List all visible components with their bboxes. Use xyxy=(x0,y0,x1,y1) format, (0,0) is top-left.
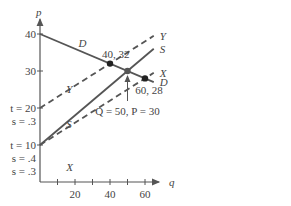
y-axis-label: p xyxy=(35,6,42,18)
axes: qp2040604030t = 20t = 10s = .3s = .4s = … xyxy=(10,6,175,200)
y-annotation: s = .3 xyxy=(12,165,37,177)
y-tick-label: t = 20 xyxy=(10,102,36,114)
point-label: 40, 32 xyxy=(102,48,130,60)
y-tick-label: t = 10 xyxy=(10,139,36,151)
x-tick-label: 40 xyxy=(105,188,117,200)
series-end-label-Y: Y xyxy=(160,30,168,42)
series-label-X: X xyxy=(65,161,74,173)
point-label: 60, 28 xyxy=(135,84,163,96)
data-point xyxy=(124,68,130,74)
series-line-D xyxy=(40,34,154,82)
series-label-S: S xyxy=(66,118,72,130)
x-tick-label: 20 xyxy=(70,188,82,200)
series-end-label-X: X xyxy=(159,67,168,79)
y-annotation: s = .4 xyxy=(12,152,37,164)
annotation-label: Q = 50, P = 30 xyxy=(95,105,160,117)
x-axis-label: q xyxy=(169,176,175,188)
series-end-label-S: S xyxy=(160,43,166,55)
series-label-D: D xyxy=(78,37,87,49)
chart: qp2040604030t = 20t = 10s = .3s = .4s = … xyxy=(0,0,291,206)
y-tick-label: 40 xyxy=(25,28,37,40)
y-annotation: s = .3 xyxy=(12,115,37,127)
data-point xyxy=(107,60,113,66)
data-point xyxy=(142,75,148,81)
y-tick-label: 30 xyxy=(25,65,37,77)
x-tick-label: 60 xyxy=(140,188,152,200)
series-label-Y: Y xyxy=(66,83,74,95)
